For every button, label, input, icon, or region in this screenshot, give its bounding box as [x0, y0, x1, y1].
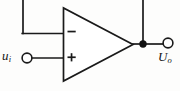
opamp-triangle-body [64, 8, 134, 81]
output-junction-dot [139, 40, 146, 47]
output-voltage-subscript: o [168, 55, 172, 65]
input-voltage-subscript: i [9, 54, 11, 64]
output-voltage-label: Uo [158, 50, 172, 63]
input-terminal-circle[interactable] [22, 53, 32, 63]
schematic-canvas [0, 0, 180, 91]
input-voltage-label: ui [2, 49, 11, 62]
noninverting-plus-sign-vertical [71, 53, 73, 61]
output-voltage-symbol: U [158, 49, 167, 64]
output-terminal-circle[interactable] [163, 38, 173, 48]
inverting-minus-sign [68, 31, 76, 33]
input-voltage-symbol: u [2, 48, 9, 63]
circuit-schematic-figure: ui Uo [0, 0, 180, 91]
